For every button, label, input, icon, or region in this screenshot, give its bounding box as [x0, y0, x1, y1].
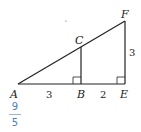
- fraction-bar: [9, 114, 21, 115]
- label-B: B: [76, 88, 85, 101]
- right-angle-mark-E: [117, 77, 125, 84]
- label-C: C: [75, 34, 84, 47]
- fraction-denominator: 5: [12, 117, 18, 128]
- length-AB: 3: [46, 89, 52, 100]
- fraction-numerator: 9: [12, 101, 18, 112]
- segment-AF: [18, 21, 125, 84]
- length-BE: 2: [100, 89, 106, 100]
- stray-dot: [65, 20, 66, 21]
- label-A: A: [9, 88, 18, 101]
- label-E: E: [119, 88, 128, 101]
- length-EF: 3: [129, 47, 135, 58]
- right-angle-mark-B: [73, 77, 81, 84]
- label-F: F: [120, 8, 129, 21]
- answer-fraction: 9 5: [8, 101, 22, 128]
